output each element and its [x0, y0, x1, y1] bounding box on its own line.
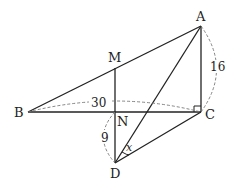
label-d: D — [110, 166, 120, 181]
measure-ac: 16 — [210, 60, 225, 74]
angle-label-x: x — [126, 141, 133, 154]
label-m: M — [108, 50, 121, 65]
measure-nd: 9 — [101, 131, 109, 145]
geometry-diagram: A B C M N D 30 16 9 x — [0, 0, 238, 185]
label-a: A — [195, 9, 206, 24]
label-n: N — [117, 114, 128, 129]
measure-bc: 30 — [91, 96, 106, 110]
label-b: B — [14, 105, 24, 120]
label-c: C — [205, 107, 215, 122]
